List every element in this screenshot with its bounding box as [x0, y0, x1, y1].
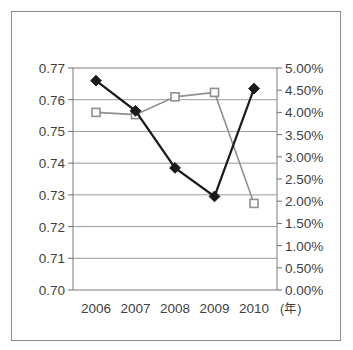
- right-axis-tick-label: 0.00%: [285, 283, 323, 298]
- yield-series-marker: [211, 88, 219, 96]
- left-axis-tick-label: 0.71: [39, 251, 65, 266]
- left-axis-tick-label: 0.77: [39, 61, 65, 76]
- left-axis-tick-marks: [68, 68, 73, 290]
- x-axis-tick-label: 2009: [199, 301, 229, 316]
- x-axis-tick-label: 2008: [160, 301, 190, 316]
- left-axis-tick-label: 0.74: [39, 156, 66, 171]
- left-axis-tick-label: 0.72: [39, 220, 65, 235]
- x-axis-unit-label: (年): [280, 302, 301, 316]
- right-axis-tick-label: 0.50%: [285, 261, 323, 276]
- left-axis-tick-label: 0.75: [39, 124, 65, 139]
- right-axis-tick-label: 4.50%: [285, 83, 323, 98]
- balance-series-marker: [249, 83, 260, 94]
- x-axis-tick-label: 2007: [120, 301, 150, 316]
- right-axis-tick-label: 2.50%: [285, 172, 323, 187]
- right-axis-tick-marks: [277, 68, 282, 290]
- left-axis-tick-label: 0.73: [39, 188, 65, 203]
- x-axis-tick-label: 2010: [239, 301, 269, 316]
- right-axis-tick-labels: 5.00%4.50%4.00%3.50%3.00%2.50%2.00%1.50%…: [285, 61, 323, 298]
- right-axis-tick-label: 2.00%: [285, 194, 323, 209]
- chart-svg: 0.770.760.750.740.730.720.710.70 5.00%4.…: [0, 0, 353, 350]
- yield-series-marker: [250, 199, 258, 207]
- right-axis-tick-label: 1.00%: [285, 239, 323, 254]
- left-axis-tick-labels: 0.770.760.750.740.730.720.710.70: [39, 61, 66, 298]
- yield-series-marker: [171, 93, 179, 101]
- right-axis-tick-label: 1.50%: [285, 216, 323, 231]
- yield-series-marker: [92, 108, 100, 116]
- right-axis-tick-label: 4.00%: [285, 105, 323, 120]
- yield-series-line: [96, 92, 254, 203]
- left-axis-tick-label: 0.76: [39, 93, 65, 108]
- right-axis-tick-label: 3.00%: [285, 150, 323, 165]
- dual-axis-line-chart: 0.770.760.750.740.730.720.710.70 5.00%4.…: [0, 0, 353, 350]
- x-axis-tick-labels: 20062007200820092010(年): [81, 301, 301, 316]
- left-axis-tick-label: 0.70: [39, 283, 65, 298]
- x-axis-tick-label: 2006: [81, 301, 111, 316]
- right-axis-tick-label: 5.00%: [285, 61, 323, 76]
- right-axis-tick-label: 3.50%: [285, 128, 323, 143]
